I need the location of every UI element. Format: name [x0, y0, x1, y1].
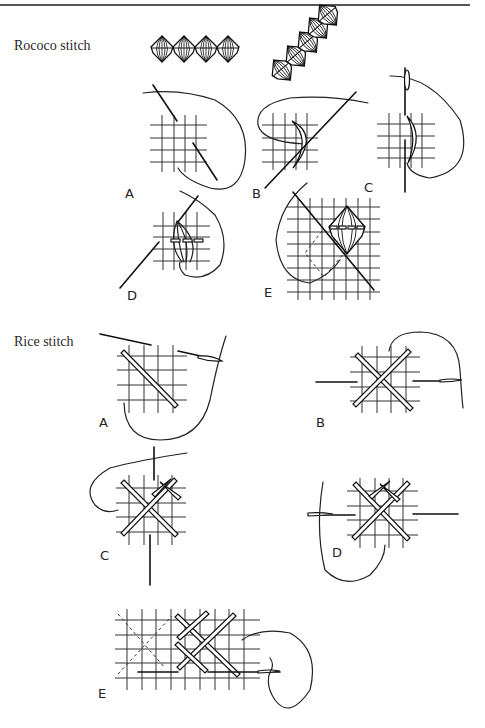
rice-figure-c	[90, 447, 187, 585]
rice-figure-b	[316, 332, 463, 413]
rococo-figure-e	[276, 183, 380, 300]
rococo-sample-row	[151, 36, 239, 62]
rice-figure-d	[308, 478, 458, 581]
rococo-figure-c	[377, 68, 464, 192]
stitch-illustrations	[0, 0, 485, 728]
rice-figure-e	[115, 609, 313, 708]
rice-figure-a	[100, 334, 226, 440]
rococo-sample-diagonal	[265, 0, 345, 87]
rococo-figure-d	[120, 191, 224, 288]
rococo-figure-b	[258, 92, 368, 188]
rococo-figure-a	[143, 85, 246, 189]
